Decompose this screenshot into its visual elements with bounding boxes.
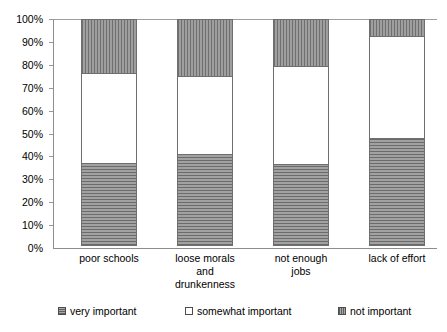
category-label-not-enough-jobs: not enough jobs	[253, 252, 349, 278]
stacked-column-chart: 100% 90% 80% 70% 60% 50% 40% 30% 20% 10%…	[0, 0, 447, 332]
y-axis: 100% 90% 80% 70% 60% 50% 40% 30% 20% 10%…	[0, 0, 48, 332]
segment-very-important[interactable]	[81, 163, 137, 247]
legend-item-somewhat-important[interactable]: somewhat important	[185, 305, 292, 317]
y-tick-label-90: 90%	[22, 37, 43, 48]
y-tick-label-40: 40%	[22, 151, 43, 162]
segment-somewhat-important[interactable]	[177, 76, 233, 155]
category-label-line: lack of effort	[349, 252, 445, 265]
category-label-lack-of-effort: lack of effort	[349, 252, 445, 265]
category-label-line: jobs	[253, 265, 349, 278]
legend-label: not important	[350, 305, 411, 317]
category-label-line: drunkenness	[157, 278, 253, 291]
segment-somewhat-important[interactable]	[81, 73, 137, 164]
bar-loose-morals-and-drunkenness[interactable]	[177, 19, 233, 248]
bar-not-enough-jobs[interactable]	[273, 19, 329, 248]
segment-somewhat-important[interactable]	[273, 66, 329, 165]
legend-item-very-important[interactable]: very important	[58, 305, 137, 317]
y-tick-label-0: 0%	[28, 243, 43, 254]
y-tick-label-10: 10%	[22, 220, 43, 231]
category-label-line: poor schools	[61, 252, 157, 265]
segment-very-important[interactable]	[369, 138, 425, 246]
legend-label: very important	[70, 305, 137, 317]
x-axis-category-labels: poor schools loose morals and drunkennes…	[54, 252, 437, 300]
segment-not-important[interactable]	[369, 19, 425, 37]
legend-label: somewhat important	[197, 305, 292, 317]
segment-very-important[interactable]	[177, 154, 233, 246]
y-tick-label-20: 20%	[22, 197, 43, 208]
y-tick-label-100: 100%	[16, 14, 43, 25]
category-label-loose-morals-and-drunkenness: loose morals and drunkenness	[157, 252, 253, 291]
category-label-line: not enough	[253, 252, 349, 265]
segment-not-important[interactable]	[177, 19, 233, 77]
y-tick-label-60: 60%	[22, 105, 43, 116]
category-label-line: and	[157, 265, 253, 278]
segment-not-important[interactable]	[81, 19, 137, 74]
category-label-line: loose morals	[157, 252, 253, 265]
y-tick-label-80: 80%	[22, 60, 43, 71]
legend-item-not-important[interactable]: not important	[338, 305, 411, 317]
bars-layer	[54, 19, 437, 248]
chart-legend: very important somewhat important not im…	[0, 305, 447, 323]
bar-lack-of-effort[interactable]	[369, 19, 425, 248]
y-tick-label-70: 70%	[22, 82, 43, 93]
y-tick-label-50: 50%	[22, 128, 43, 139]
legend-swatch-vertical-stripes-icon	[338, 307, 346, 315]
y-tick-label-30: 30%	[22, 174, 43, 185]
bar-poor-schools[interactable]	[81, 19, 137, 248]
segment-somewhat-important[interactable]	[369, 36, 425, 139]
category-label-poor-schools: poor schools	[61, 252, 157, 265]
legend-swatch-horizontal-stripes-icon	[58, 307, 66, 315]
segment-very-important[interactable]	[273, 164, 329, 246]
legend-swatch-empty-icon	[185, 307, 193, 315]
segment-not-important[interactable]	[273, 19, 329, 67]
